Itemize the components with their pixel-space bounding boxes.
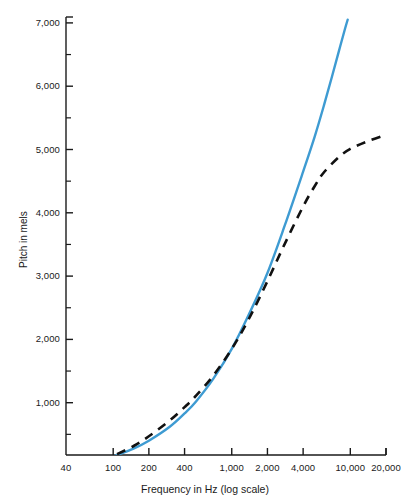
plot-area (0, 0, 410, 503)
x-tick-label: 4,000 (291, 463, 315, 473)
x-axis-ticks (113, 448, 386, 455)
x-tick-label: 10,000 (335, 463, 365, 473)
x-tick-label: 400 (176, 463, 192, 473)
series-line (87, 135, 386, 464)
y-tick-label: 7,000 (14, 18, 60, 28)
x-tick-label: 40 (61, 463, 72, 473)
x-axis-title: Frequency in Hz (log scale) (0, 483, 410, 495)
y-axis-ticks (66, 23, 73, 434)
x-tick-label: 100 (105, 463, 121, 473)
x-tick-label: 20,000 (371, 463, 401, 473)
y-tick-label: 1,000 (14, 398, 60, 408)
mel-scale-chart: 1,0002,0003,0004,0005,0006,0007,000 4010… (0, 0, 410, 503)
series-line (66, 20, 348, 466)
x-tick-label: 2,000 (255, 463, 279, 473)
y-tick-label: 3,000 (14, 271, 60, 281)
data-series-layer (66, 20, 386, 466)
y-tick-label: 5,000 (14, 145, 60, 155)
axis-lines (66, 17, 386, 455)
x-tick-label: 1,000 (220, 463, 244, 473)
y-axis-title: Pitch in mels (18, 211, 29, 268)
y-tick-label: 2,000 (14, 335, 60, 345)
x-tick-label: 200 (141, 463, 157, 473)
y-tick-label: 6,000 (14, 81, 60, 91)
